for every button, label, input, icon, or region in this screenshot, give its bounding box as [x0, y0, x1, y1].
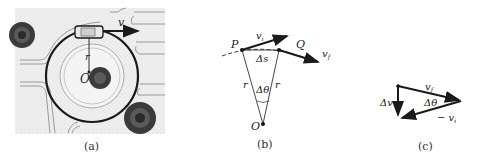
panel-b: P Q vi vf Δs Δθ r r O (b) [222, 30, 332, 151]
label-r-right: r [275, 79, 281, 90]
car-icon [75, 26, 103, 38]
velocity-label: v [118, 16, 125, 29]
vf-arrow [279, 50, 318, 62]
panel-c: vf Δv Δθ − vi (c) [379, 81, 461, 153]
panel-a: v r O (a) [9, 8, 165, 153]
label-delta-v: Δv [379, 97, 393, 108]
label-o: O [251, 120, 260, 133]
caption-b: (b) [257, 138, 273, 151]
tree-icon [9, 22, 35, 48]
label-vi: vi [256, 30, 264, 42]
label-delta-s: Δs [255, 53, 268, 64]
caption-c: (c) [418, 140, 433, 153]
label-delta-theta: Δθ [423, 97, 437, 108]
point-o [261, 122, 265, 126]
label-p: P [230, 38, 239, 51]
center-tree-icon [89, 67, 111, 89]
vi-arrow [242, 36, 287, 50]
arc-path [222, 49, 315, 62]
angle-arc [257, 101, 269, 103]
label-q: Q [296, 38, 305, 51]
label-vf: vf [322, 48, 332, 61]
figure: v r O (a) P Q vi vf Δs Δθ r r O (b) [0, 0, 482, 157]
center-label: O [80, 72, 90, 86]
label-delta-theta: Δθ [255, 84, 269, 95]
tree-icon [124, 102, 156, 134]
caption-a: (a) [84, 140, 99, 153]
label-r-left: r [243, 79, 249, 90]
label-neg-vi: − vi [437, 112, 456, 124]
